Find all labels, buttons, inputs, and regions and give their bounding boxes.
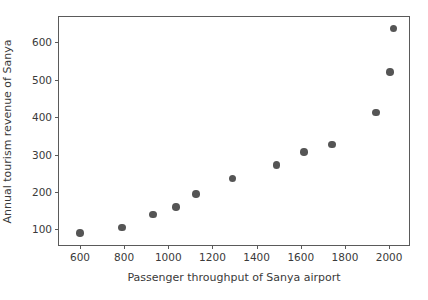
y-axis-tick-label: 600 (32, 37, 52, 48)
x-axis-tick-label: 800 (114, 252, 134, 263)
y-axis-tick (55, 192, 59, 193)
x-axis-tick-label: 1600 (287, 252, 314, 263)
x-axis-tick (168, 245, 169, 249)
y-axis-tick-label: 300 (32, 149, 52, 160)
data-point (118, 224, 126, 232)
y-axis-tick (55, 42, 59, 43)
x-axis-tick (212, 245, 213, 249)
x-axis-tick-label: 600 (70, 252, 90, 263)
y-axis-tick (55, 155, 59, 156)
data-point (386, 68, 394, 76)
y-axis-title: Annual tourism revenue of Sanya (0, 16, 16, 246)
y-axis-tick (55, 80, 59, 81)
y-axis-title-text: Annual tourism revenue of Sanya (3, 39, 14, 223)
y-axis-tick-label: 100 (32, 224, 52, 235)
x-axis-tick-label: 1200 (199, 252, 226, 263)
x-axis-tick (345, 245, 346, 249)
x-axis-tick (124, 245, 125, 249)
x-axis-tick-label: 1800 (332, 252, 359, 263)
y-axis-tick-label: 400 (32, 112, 52, 123)
data-point (149, 211, 157, 219)
data-point (229, 175, 237, 183)
data-points-layer (59, 17, 409, 245)
data-point (300, 148, 308, 156)
x-axis-tick-label: 1000 (155, 252, 182, 263)
x-axis-tick (257, 245, 258, 249)
data-point (172, 203, 180, 211)
data-point (192, 190, 200, 198)
y-axis-tick-label: 200 (32, 187, 52, 198)
x-axis-tick (389, 245, 390, 249)
y-axis-tick (55, 117, 59, 118)
scatter-chart-figure: Annual tourism revenue of Sanya 10020030… (0, 0, 428, 300)
data-point (390, 25, 398, 33)
y-axis-tick (55, 229, 59, 230)
plot-area: 1002003004005006006008001000120014001600… (58, 16, 410, 246)
data-point (372, 109, 380, 117)
data-point (76, 229, 84, 237)
y-axis-tick-label: 500 (32, 75, 52, 86)
x-axis-title: Passenger throughput of Sanya airport (58, 272, 410, 283)
x-axis-tick (80, 245, 81, 249)
data-point (328, 141, 336, 149)
data-point (273, 161, 281, 169)
x-axis-tick-label: 2000 (376, 252, 403, 263)
x-axis-tick (301, 245, 302, 249)
x-axis-tick-label: 1400 (243, 252, 270, 263)
